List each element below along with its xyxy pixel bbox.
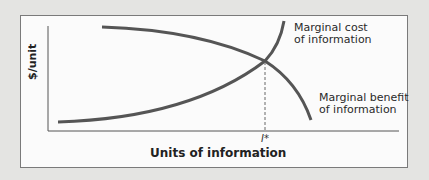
x-axis-label: Units of information: [150, 146, 286, 160]
marginal-cost-curve: [58, 21, 284, 122]
cost-label-line2: of information: [294, 34, 372, 46]
y-axis-label: $/unit: [26, 44, 39, 80]
benefit-label-line2: of information: [319, 104, 397, 116]
optimum-label: I*: [261, 133, 269, 144]
